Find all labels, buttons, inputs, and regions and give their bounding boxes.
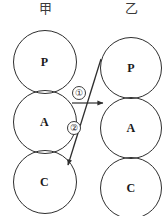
arrow-2-label: ②	[67, 121, 81, 135]
diagram-canvas: 甲 乙 P A C P A C ① ②	[0, 0, 165, 216]
arrow-1-label: ①	[72, 86, 86, 100]
arrow-2-line	[68, 59, 101, 165]
arrow-layer	[0, 0, 165, 216]
